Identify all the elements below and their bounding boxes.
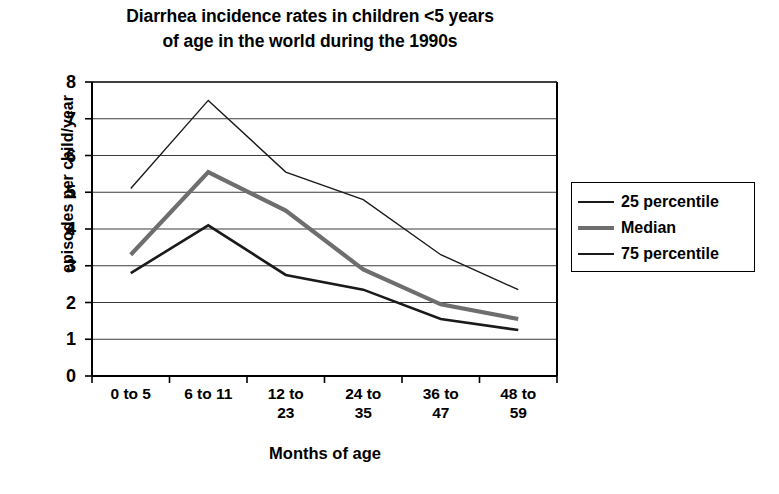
gridlines (92, 119, 557, 376)
series-line-median (131, 172, 519, 319)
y-tick-label: 5 (50, 183, 76, 201)
legend-line-icon-median (578, 221, 614, 235)
legend-label-median: Median (621, 220, 676, 236)
series-lines (131, 100, 519, 330)
x-tick-label: 6 to 11 (169, 384, 247, 403)
legend-item-median: Median (572, 215, 754, 241)
x-tick-label: 12 to 23 (247, 384, 325, 422)
x-tick-label: 24 to 35 (324, 384, 402, 422)
legend-item-25-percentile: 25 percentile (572, 189, 754, 215)
x-tick-label: 0 to 5 (92, 384, 170, 403)
x-tick-label: 48 to 59 (479, 384, 557, 422)
axis-ticks (85, 82, 557, 383)
legend-label-25-percentile: 25 percentile (621, 194, 719, 210)
y-tick-label: 8 (50, 73, 76, 91)
y-tick-label: 3 (50, 257, 76, 275)
y-tick-label: 0 (50, 367, 76, 385)
y-tick-label: 1 (50, 330, 76, 348)
chart-legend: 25 percentile Median 75 percentile (571, 182, 755, 272)
y-tick-label: 6 (50, 147, 76, 165)
legend-line-icon-25-percentile (578, 195, 614, 209)
legend-item-75-percentile: 75 percentile (572, 241, 754, 267)
legend-line-icon-75-percentile (578, 247, 614, 261)
y-tick-label: 4 (50, 220, 76, 238)
legend-label-75-percentile: 75 percentile (621, 246, 719, 262)
x-tick-label: 36 to 47 (402, 384, 480, 422)
y-tick-label: 7 (50, 110, 76, 128)
chart-figure: Diarrhea incidence rates in children <5 … (0, 0, 779, 494)
y-tick-label: 2 (50, 294, 76, 312)
scan-edge-strip (0, 486, 779, 494)
